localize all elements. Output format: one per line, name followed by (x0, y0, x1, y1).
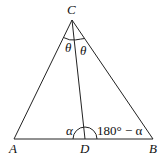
vertex-label-b: B (149, 141, 157, 156)
vertex-label-a: A (8, 141, 17, 156)
angle-label-theta-left: θ (65, 40, 72, 55)
cevian-cd (72, 20, 85, 139)
angle-label-supplement: 180° − α (97, 123, 143, 138)
side-cb (72, 20, 153, 139)
triangle-diagram: C A D B θ θ α 180° − α (0, 0, 163, 165)
side-ca (14, 20, 72, 139)
angle-label-theta-right: θ (80, 43, 87, 58)
angle-label-alpha: α (66, 123, 74, 138)
vertex-label-c: C (67, 2, 76, 17)
vertex-label-d: D (79, 141, 90, 156)
angle-arc-dcb (76, 39, 85, 40)
